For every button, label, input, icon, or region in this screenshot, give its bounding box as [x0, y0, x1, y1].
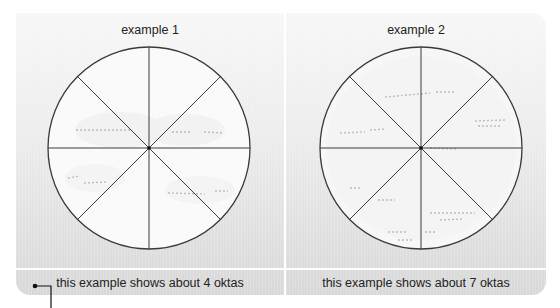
okta-circle-icon	[320, 47, 522, 249]
okta-circle-icon	[48, 47, 250, 249]
okta-circles	[0, 0, 560, 308]
connector-line-icon	[33, 284, 51, 308]
